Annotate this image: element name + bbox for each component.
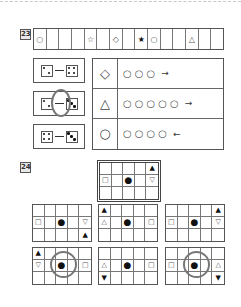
reference-grid: ▲□●▽ — [97, 160, 161, 202]
symbol-strip: ○☆◇★○△ — [33, 28, 224, 50]
triangle-up-filled-icon: ▲ — [79, 229, 91, 241]
die-face-2-icon — [41, 65, 53, 77]
grid-cell — [134, 272, 146, 284]
square-icon: □ — [79, 260, 91, 272]
grid-cell — [134, 217, 146, 229]
square-icon: □ — [166, 217, 178, 229]
arrow-right-icon: → — [185, 98, 193, 108]
dash-connector — [55, 70, 64, 72]
grid-cell — [111, 272, 123, 284]
triangle-up-filled-icon: ▲ — [212, 205, 224, 217]
grid-cell — [112, 187, 124, 199]
circle-icon: ○ — [135, 68, 144, 79]
star-outline-icon: ☆ — [87, 35, 94, 44]
dice-option-2[interactable] — [33, 91, 85, 116]
dot-filled-icon: ● — [123, 175, 135, 187]
square-icon: □ — [166, 260, 178, 272]
triangle-down-filled-icon: ▼ — [99, 272, 111, 284]
dice-option-1[interactable] — [33, 58, 85, 83]
circle-icon: ○ — [135, 98, 144, 109]
circle-icon: ○ — [158, 98, 167, 109]
grid-cell — [135, 163, 147, 175]
triangle-up-outline-icon: △ — [189, 35, 195, 44]
grid-cell — [45, 205, 57, 217]
triangle-down-filled-icon: ▼ — [212, 272, 224, 284]
square-icon: □ — [33, 217, 45, 229]
strip-cell — [47, 29, 60, 49]
strip-cell — [199, 29, 212, 49]
circle-icon: ○ — [146, 128, 155, 139]
triangle-down-outline-icon: ▽ — [212, 217, 224, 229]
dot-filled-icon: ● — [189, 217, 201, 229]
grid-cell — [56, 205, 68, 217]
grid-cell — [111, 205, 123, 217]
grid-cell — [145, 248, 157, 260]
circle-icon: ○ — [146, 68, 155, 79]
dot-filled-icon: ● — [56, 217, 68, 229]
page-divider — [0, 1, 241, 2]
diamond-icon: ◇ — [113, 35, 119, 44]
grid-cell — [56, 229, 68, 241]
grid-cell — [134, 229, 146, 241]
grid-cell — [33, 205, 45, 217]
grid-cell — [134, 205, 146, 217]
grid-option-1[interactable]: □●▽▲ — [32, 204, 92, 242]
grid-cell — [123, 163, 135, 175]
triangle-up-outline-icon: △ — [99, 217, 111, 229]
grid-option-6[interactable]: □●△▼ — [165, 247, 225, 285]
star-filled-icon: ★ — [138, 35, 145, 44]
grid-cell — [122, 248, 134, 260]
triangle-up-filled-icon: ▲ — [146, 163, 158, 175]
grid-option-3[interactable]: ▲□●▽ — [165, 204, 225, 242]
grid-cell — [145, 272, 157, 284]
square-icon: □ — [100, 175, 112, 187]
grid-option-4[interactable]: ▲▽●□ — [32, 247, 92, 285]
strip-cell — [72, 29, 85, 49]
grid-cell — [111, 229, 123, 241]
grid-cell — [212, 248, 224, 260]
grid-cell — [111, 217, 123, 229]
die-face-4-icon — [41, 131, 53, 143]
grid-cell — [178, 205, 190, 217]
grid-cell — [166, 229, 178, 241]
strip-cell: ★ — [135, 29, 148, 49]
grid-option-5[interactable]: △●□▼ — [98, 247, 158, 285]
square-icon: □ — [145, 260, 157, 272]
selection-circle — [183, 251, 210, 278]
triangle-up-outline-icon: △ — [212, 260, 224, 272]
triangle-up-filled-icon: ▲ — [99, 205, 111, 217]
circle-icon: ○ — [170, 98, 179, 109]
strip-cell: ☆ — [85, 29, 98, 49]
grid-cell — [79, 272, 91, 284]
die-face-3-icon — [66, 131, 78, 143]
grid-cell — [145, 229, 157, 241]
grid-cell — [68, 205, 80, 217]
grid-cell — [135, 187, 147, 199]
strip-cell: ○ — [34, 29, 47, 49]
grid-cell — [166, 205, 178, 217]
grid-cell — [111, 248, 123, 260]
grid-cell — [123, 187, 135, 199]
strip-cell: ○ — [148, 29, 161, 49]
dice-option-3[interactable] — [33, 124, 85, 149]
grid-cell — [212, 229, 224, 241]
grid-cell — [99, 229, 111, 241]
selection-circle — [51, 89, 71, 117]
rule-row: ○○○○○← — [93, 119, 223, 149]
circle-icon: ○ — [123, 128, 132, 139]
grid-cell — [201, 217, 213, 229]
grid-cell — [68, 229, 80, 241]
circle-icon: ○ — [36, 35, 43, 44]
grid-cell — [68, 217, 80, 229]
grid-cell — [100, 163, 112, 175]
rule-row: ◇○○○→ — [93, 59, 223, 89]
circle-icon: ○ — [150, 35, 157, 44]
grid-cell — [178, 217, 190, 229]
dot-filled-icon: ● — [122, 260, 134, 272]
circle-icon: ○ — [123, 68, 132, 79]
grid-cell — [134, 260, 146, 272]
strip-cell: ◇ — [110, 29, 123, 49]
grid-cell — [112, 163, 124, 175]
grid-option-2[interactable]: ▲△●□ — [98, 204, 158, 242]
grid-cell — [134, 248, 146, 260]
